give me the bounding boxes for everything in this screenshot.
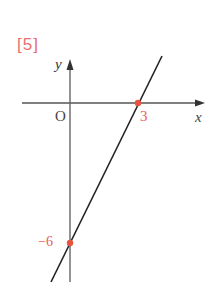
x-intercept-point bbox=[135, 100, 141, 106]
problem-label: [5] bbox=[17, 36, 39, 53]
origin-label: O bbox=[55, 109, 66, 124]
y-axis-label: y bbox=[55, 57, 62, 72]
y-axis-arrow-icon bbox=[67, 59, 74, 70]
x-intercept-label: 3 bbox=[140, 109, 148, 124]
x-axis-arrow-icon bbox=[195, 100, 205, 107]
y-intercept-label: −6 bbox=[38, 235, 53, 249]
x-axis-label: x bbox=[195, 110, 202, 125]
graph-line bbox=[51, 56, 162, 282]
y-intercept-point bbox=[67, 240, 73, 246]
